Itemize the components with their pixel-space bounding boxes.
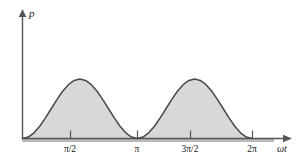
x-axis-tick-label: π bbox=[135, 145, 140, 155]
plot-area bbox=[0, 0, 299, 161]
baseline-shadow-band bbox=[22, 139, 274, 142]
x-axis-tick-label: 2π bbox=[247, 145, 257, 155]
y-axis-label: p bbox=[29, 8, 35, 19]
y-axis-arrowhead bbox=[19, 9, 26, 17]
x-axis-tick-label: 3π/2 bbox=[182, 145, 199, 155]
power-waveform-figure: p ωt π/2π3π/22π bbox=[0, 0, 299, 161]
power-curve-area bbox=[23, 79, 253, 139]
x-axis-arrowhead bbox=[283, 135, 292, 142]
x-axis-tick-label: π/2 bbox=[64, 145, 76, 155]
x-axis-label: ωt bbox=[277, 144, 287, 154]
